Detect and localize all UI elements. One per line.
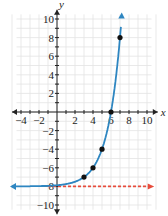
y-tick-label: −6 (42, 162, 54, 174)
data-point (117, 35, 122, 40)
y-axis-arrow-icon (54, 209, 60, 214)
x-tick-label: 2 (72, 114, 78, 126)
exponential-graph: −4−2246810108642−2−4−6−8−10xy (0, 0, 168, 216)
x-tick-label: 10 (142, 114, 154, 126)
data-point (99, 147, 104, 152)
x-axis-arrow-icon (153, 109, 158, 115)
y-tick-label: 2 (49, 87, 55, 99)
data-point (90, 165, 95, 170)
y-tick-label: 4 (49, 69, 55, 81)
curve-arrow-icon (118, 12, 125, 18)
exponential-curve (12, 27, 121, 187)
x-tick-label: −4 (15, 114, 27, 126)
y-tick-label: 6 (49, 50, 55, 62)
y-axis-arrow-icon (54, 10, 60, 15)
y-tick-label: −2 (42, 125, 54, 137)
data-point (81, 175, 86, 180)
x-axis-label: x (160, 106, 166, 118)
y-tick-label: −10 (37, 199, 55, 211)
asymptote-arrow-icon (148, 183, 155, 189)
data-point (108, 109, 113, 114)
y-tick-label: 10 (43, 13, 55, 25)
y-tick-label: 8 (49, 32, 55, 44)
curve-arrow-icon (10, 183, 16, 190)
y-tick-label: −4 (42, 143, 54, 155)
y-axis-label: y (58, 0, 64, 10)
x-tick-label: 8 (126, 114, 132, 126)
x-tick-label: 4 (90, 114, 96, 126)
